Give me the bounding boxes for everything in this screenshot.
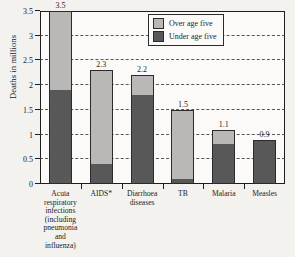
gridline xyxy=(40,158,285,159)
y-axis-tick-label: 3 xyxy=(29,31,33,40)
y-axis-tick-label: 0.5 xyxy=(23,155,33,164)
legend-swatch-icon xyxy=(153,31,164,42)
y-axis-tick xyxy=(35,109,40,110)
gridline xyxy=(40,134,285,135)
y-axis-tick xyxy=(35,84,40,85)
bar-segment-under-age-five[interactable] xyxy=(212,144,235,184)
y-axis-tick xyxy=(35,183,40,184)
y-axis-title: Deaths in millions xyxy=(8,7,18,127)
y-axis-tick-label: 3.5 xyxy=(23,7,33,16)
bar-value-label: 2.2 xyxy=(137,65,147,74)
x-axis-category-label: Acutarespiratoryinfections(includingpneu… xyxy=(33,190,88,250)
x-axis-category-label-line: diseases xyxy=(115,199,170,208)
bar-stack[interactable]: 0.9 xyxy=(253,140,276,184)
x-axis-category-label-line: influenza) xyxy=(33,242,88,251)
y-axis-tick-label: 1.5 xyxy=(23,105,33,114)
bar-segment-under-age-five[interactable] xyxy=(49,90,72,184)
bar-segment-over-age-five[interactable] xyxy=(90,70,113,164)
bar-segment-under-age-five[interactable] xyxy=(90,164,113,184)
x-axis-tick xyxy=(122,184,123,189)
bar-segment-under-age-five[interactable] xyxy=(171,179,194,184)
bar-segment-over-age-five[interactable] xyxy=(131,75,154,95)
x-axis-tick xyxy=(203,184,204,189)
x-axis-tick xyxy=(244,184,245,189)
y-axis-tick xyxy=(35,134,40,135)
bar-segment-over-age-five[interactable] xyxy=(171,110,194,179)
gridline xyxy=(40,109,285,110)
x-axis-category-label: Measles xyxy=(237,190,292,199)
gridline xyxy=(40,59,285,60)
bar-stack[interactable]: 1.1 xyxy=(212,130,235,184)
bar-stack[interactable]: 2.2 xyxy=(131,75,154,184)
bar-value-label: 0.9 xyxy=(260,130,270,139)
legend-item[interactable]: Over age five xyxy=(153,18,217,29)
x-axis-category-label-line: Measles xyxy=(237,190,292,199)
y-axis-tick xyxy=(35,59,40,60)
bar-value-label: 1.5 xyxy=(178,100,188,109)
y-axis-tick xyxy=(35,10,40,11)
bar-stack[interactable]: 3.5 xyxy=(49,11,72,184)
deaths-by-disease-stacked-bar-chart: Deaths in millions 00.511.522.533.5 3.52… xyxy=(0,0,295,257)
bar-value-label: 2.3 xyxy=(96,60,106,69)
legend-swatch-icon xyxy=(153,18,164,29)
y-axis-tick-label: 2 xyxy=(29,81,33,90)
bar-stack[interactable]: 1.5 xyxy=(171,110,194,184)
gridline xyxy=(40,84,285,85)
bar-stack[interactable]: 2.3 xyxy=(90,70,113,184)
bar-segment-over-age-five[interactable] xyxy=(212,130,235,145)
y-axis-tick-label: 2.5 xyxy=(23,56,33,65)
bar-segment-under-age-five[interactable] xyxy=(131,95,154,184)
bar-segment-under-age-five[interactable] xyxy=(253,140,276,184)
y-axis-tick xyxy=(35,35,40,36)
y-axis-tick-label: 0 xyxy=(29,180,33,189)
x-axis-tick xyxy=(163,184,164,189)
legend-item-label: Over age five xyxy=(169,19,213,28)
y-axis-tick-label: 1 xyxy=(29,130,33,139)
legend-item-label: Under age five xyxy=(169,32,217,41)
bar-segment-over-age-five[interactable] xyxy=(49,11,72,90)
bar-value-label: 1.1 xyxy=(219,120,229,129)
chart-legend: Over age fiveUnder age five xyxy=(148,14,224,46)
legend-item[interactable]: Under age five xyxy=(153,31,217,42)
bar-value-label: 3.5 xyxy=(55,1,65,10)
y-axis-tick xyxy=(35,158,40,159)
x-axis-tick xyxy=(81,184,82,189)
